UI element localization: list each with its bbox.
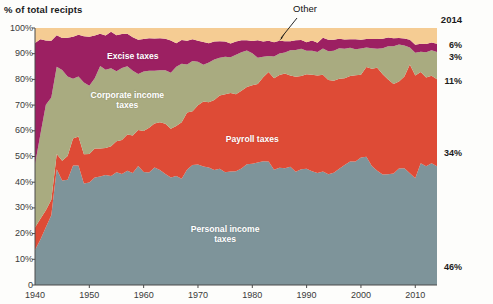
series-label-excise-taxes: Excise taxes	[107, 51, 159, 62]
series-label-corporate-income-taxes: Corporate income taxes	[91, 89, 165, 110]
chart-root: % of total recipts 010%20%30%40%50%60%70…	[0, 0, 493, 304]
stacked-area-plot	[0, 0, 493, 304]
series-label-payroll-taxes: Payroll taxes	[226, 133, 279, 144]
series-label-personal-income-taxes: Personal income taxes	[191, 223, 260, 244]
other-annotation-label: Other	[293, 3, 317, 14]
